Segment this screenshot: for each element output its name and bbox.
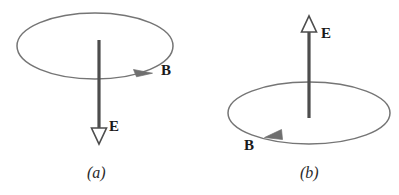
figure-container: B E (a) E B (b) [0, 0, 399, 195]
panel-caption-a: (a) [87, 164, 106, 182]
e-field-arrow-a [92, 40, 107, 144]
panel-caption-b: (b) [300, 164, 319, 182]
physics-figure: B E (a) E B (b) [0, 0, 399, 195]
b-field-arrowhead-a [134, 70, 153, 77]
e-field-arrow-b [302, 16, 317, 118]
b-field-arrowhead-b [265, 130, 283, 140]
b-field-label-a: B [161, 62, 171, 78]
e-field-label-b: E [321, 25, 331, 41]
b-field-label-b: B [244, 137, 254, 153]
panel-b: E B (b) [228, 16, 390, 182]
loop-ellipse-a [17, 13, 173, 79]
panel-a: B E (a) [17, 13, 173, 182]
e-field-label-a: E [109, 118, 119, 134]
